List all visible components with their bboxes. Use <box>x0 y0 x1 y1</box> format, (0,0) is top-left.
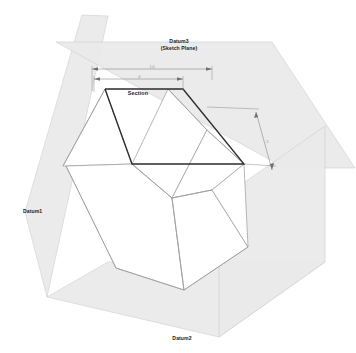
dim-value-depth: .5 <box>266 140 269 144</box>
datum1-label: Datum1 <box>23 208 42 214</box>
cad-drawing-canvas[interactable]: 1.0 .6 .5 Datum3 <box>0 0 356 353</box>
datum3-label-line1: Datum3 <box>169 38 188 44</box>
dim-value-section-width: .6 <box>138 75 141 79</box>
dim-value-overall-width: 1.0 <box>150 65 155 69</box>
datum2-label: Datum2 <box>172 335 191 341</box>
section-label: Section <box>128 90 149 96</box>
datum3-label-line2: (Sketch Plane) <box>161 45 198 51</box>
cad-viewport: 1.0 .6 .5 Datum3 <box>0 0 356 353</box>
